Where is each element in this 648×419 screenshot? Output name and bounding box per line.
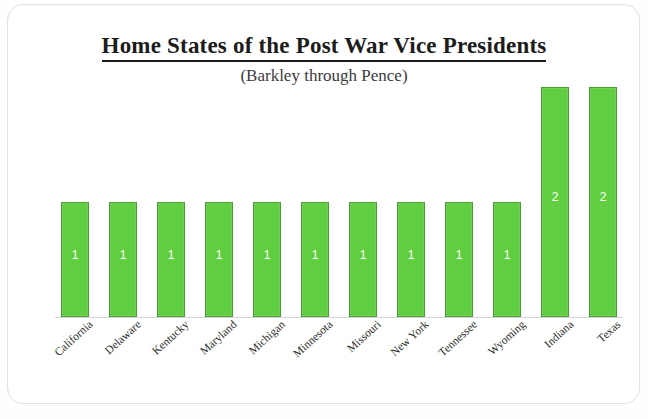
bar-texas: 2 [589, 87, 617, 317]
bar-series: 111111111122 [55, 81, 625, 317]
bar-value-label: 1 [350, 249, 376, 261]
x-tick-label: Tennessee [436, 318, 479, 358]
bar-value-label: 1 [494, 249, 520, 261]
bar-value-label: 1 [302, 249, 328, 261]
bar-value-label: 1 [206, 249, 232, 261]
x-tick-label: Minnesota [291, 318, 335, 359]
bar-delaware: 1 [109, 202, 137, 317]
x-tick-label: Delaware [102, 318, 143, 356]
x-tick-label: Kentucky [150, 318, 191, 357]
bar-new-york: 1 [397, 202, 425, 317]
x-tick-label: Texas [595, 318, 623, 345]
bar-value-label: 2 [542, 191, 568, 203]
bar-value-label: 1 [398, 249, 424, 261]
bar-value-label: 1 [158, 249, 184, 261]
bar-maryland: 1 [205, 202, 233, 317]
bar-value-label: 1 [446, 249, 472, 261]
chart-screenshot: Home States of the Post War Vice Preside… [0, 0, 648, 419]
bar-kentucky: 1 [157, 202, 185, 317]
bar-value-label: 2 [590, 191, 616, 203]
x-tick-label: New York [388, 318, 431, 358]
bar-michigan: 1 [253, 202, 281, 317]
bar-indiana: 2 [541, 87, 569, 317]
x-tick-label: California [52, 318, 95, 358]
bar-minnesota: 1 [301, 202, 329, 317]
x-tick-label: Michigan [246, 318, 287, 356]
bar-value-label: 1 [62, 249, 88, 261]
bar-missouri: 1 [349, 202, 377, 317]
x-tick-label: Indiana [541, 318, 575, 350]
plot-area: 111111111122 [55, 80, 625, 318]
bar-value-label: 1 [110, 249, 136, 261]
bar-value-label: 1 [254, 249, 280, 261]
bar-wyoming: 1 [493, 202, 521, 317]
bar-tennessee: 1 [445, 202, 473, 317]
x-axis-tick-labels: CaliforniaDelawareKentuckyMarylandMichig… [55, 318, 635, 398]
chart-title: Home States of the Post War Vice Preside… [0, 33, 648, 59]
x-tick-label: Maryland [198, 318, 239, 357]
x-tick-label: Wyoming [485, 318, 527, 357]
chart-title-text: Home States of the Post War Vice Preside… [102, 33, 547, 62]
bar-california: 1 [61, 202, 89, 317]
x-tick-label: Missouri [345, 318, 383, 354]
